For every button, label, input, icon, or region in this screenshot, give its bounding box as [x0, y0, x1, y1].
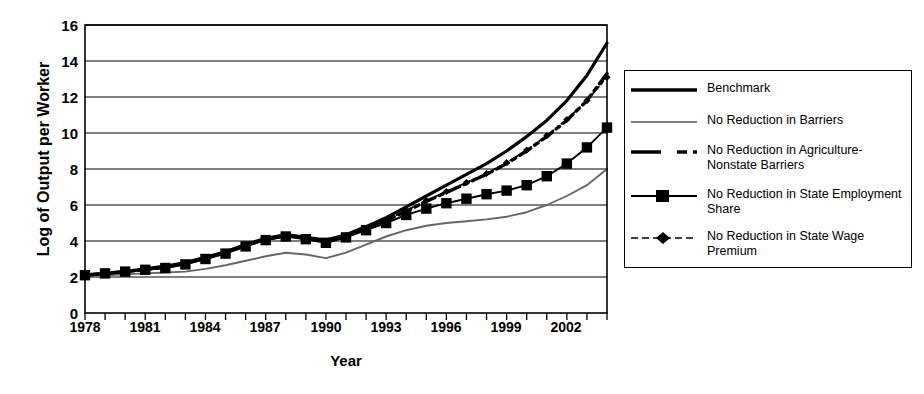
series-marker	[521, 180, 531, 190]
legend-item-state-wage-premium: No Reduction in State Wage Premium	[625, 229, 913, 258]
series-marker	[180, 259, 190, 269]
legend-symbol-solid-thick	[625, 81, 707, 99]
series-line	[85, 74, 607, 276]
series-marker	[582, 142, 592, 152]
x-tick-1996: 1996	[423, 320, 469, 334]
series-marker	[441, 198, 451, 208]
series-marker	[321, 238, 331, 248]
x-tick-1978: 1978	[62, 320, 108, 334]
series-marker	[542, 171, 552, 181]
series-marker	[240, 241, 250, 251]
legend-symbol-thin-gray	[625, 113, 707, 131]
x-tick-2002: 2002	[543, 320, 589, 334]
x-axis-ticks	[85, 313, 607, 320]
series-marker	[281, 231, 291, 241]
x-tick-1993: 1993	[363, 320, 409, 334]
x-tick-1990: 1990	[303, 320, 349, 334]
series-marker	[421, 203, 431, 213]
legend-symbol-square-marker	[625, 187, 707, 205]
series-marker	[501, 185, 511, 195]
legend-symbol-dashed-thick	[625, 143, 707, 161]
series-marker	[120, 266, 130, 276]
legend-symbol-dotted-diamond	[625, 229, 707, 247]
series-marker	[220, 248, 230, 258]
series-marker	[381, 218, 391, 228]
series-marker	[481, 189, 491, 199]
legend-item-state-employment-share: No Reduction in State Employment Share	[625, 187, 913, 216]
chart-figure: Log of Output per Worker 16 14 12 10 8 6…	[0, 0, 924, 394]
series-marker	[160, 263, 170, 273]
legend-label-benchmark: Benchmark	[707, 81, 774, 96]
legend-item-no-reduction-barriers: No Reduction in Barriers	[625, 113, 913, 131]
series-marker	[100, 268, 110, 278]
x-tick-1981: 1981	[122, 320, 168, 334]
series-marker	[461, 194, 471, 204]
x-tick-1999: 1999	[483, 320, 529, 334]
series-marker	[200, 254, 210, 264]
x-tick-1984: 1984	[182, 320, 228, 334]
x-axis-title: Year	[85, 352, 607, 369]
legend-label-agriculture-nonstate-barriers: No Reduction in Agriculture-Nonstate Bar…	[707, 143, 913, 172]
legend-label-state-employment-share: No Reduction in State Employment Share	[707, 187, 913, 216]
series-marker	[140, 265, 150, 275]
legend-label-state-wage-premium: No Reduction in State Wage Premium	[707, 229, 913, 258]
legend-item-benchmark: Benchmark	[625, 81, 913, 99]
chart-legend: Benchmark No Reduction in Barriers No Re…	[624, 70, 912, 268]
legend-item-agriculture-nonstate-barriers: No Reduction in Agriculture-Nonstate Bar…	[625, 143, 913, 172]
series-marker	[562, 158, 572, 168]
series-marker	[401, 210, 411, 220]
legend-label-no-reduction-barriers: No Reduction in Barriers	[707, 113, 847, 128]
x-tick-1987: 1987	[242, 320, 288, 334]
series-marker	[260, 235, 270, 245]
series-layer	[80, 43, 612, 280]
series-marker	[301, 234, 311, 244]
series-line	[85, 77, 607, 275]
series-marker	[341, 232, 351, 242]
series-marker	[361, 225, 371, 235]
